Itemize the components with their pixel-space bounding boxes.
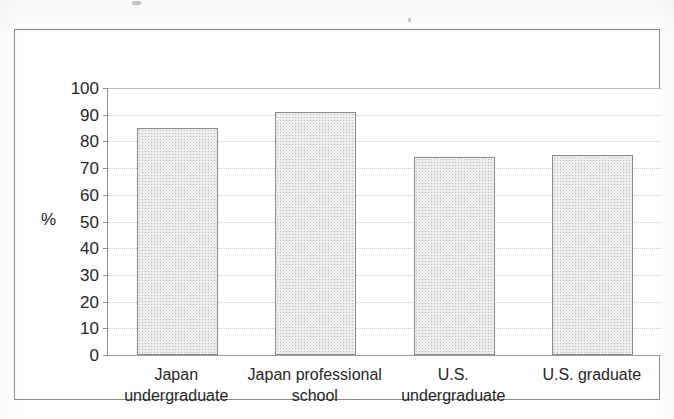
y-axis-tick-mark: [103, 222, 108, 223]
bar: [275, 112, 356, 355]
bar: [414, 157, 495, 355]
gridline: [108, 355, 661, 356]
y-axis-tick-label: 50: [80, 213, 99, 230]
bar: [137, 128, 218, 355]
scan-artifact-speck-top-right: [408, 18, 411, 22]
y-axis-tick-label: 30: [80, 266, 99, 283]
x-axis-category-label-line: undergraduate: [107, 385, 246, 406]
scan-artifact-speck-top-left: [132, 1, 141, 5]
y-axis-tick-label: 100: [71, 80, 99, 97]
x-axis-category-label: U.S. graduate: [523, 364, 662, 385]
chart-figure-frame: 1009080706050403020100 % Japanundergradu…: [14, 29, 660, 400]
x-axis-category-label-line: Japan: [107, 364, 246, 385]
y-axis-tick-label: 20: [80, 293, 99, 310]
y-axis-title: %: [41, 211, 56, 228]
y-axis-tick-labels: 1009080706050403020100: [15, 88, 99, 355]
x-axis-category-label-line: U.S. graduate: [523, 364, 662, 385]
y-axis-tick-mark: [103, 248, 108, 249]
x-axis-category-label: Japan professionalschool: [246, 364, 385, 406]
gridline: [108, 88, 661, 89]
x-axis-category-label-line: undergraduate: [384, 385, 523, 406]
y-axis-tick-mark: [103, 355, 108, 356]
y-axis-tick-label: 90: [80, 106, 99, 123]
x-axis-category-label: U.S.undergraduate: [384, 364, 523, 406]
x-axis-category-label-line: school: [246, 385, 385, 406]
y-axis-tick-label: 70: [80, 160, 99, 177]
x-axis-category-label: Japanundergraduate: [107, 364, 246, 406]
y-axis-tick-mark: [103, 168, 108, 169]
x-axis-category-label-line: U.S.: [384, 364, 523, 385]
gridline: [108, 115, 661, 116]
y-axis-tick-mark: [103, 275, 108, 276]
y-axis-tick-mark: [103, 115, 108, 116]
y-axis-tick-label: 40: [80, 240, 99, 257]
y-axis-tick-label: 80: [80, 133, 99, 150]
x-axis-category-label-line: Japan professional: [246, 364, 385, 385]
y-axis-tick-mark: [103, 141, 108, 142]
y-axis-tick-label: 0: [90, 347, 99, 364]
plot-area: [107, 88, 661, 355]
bar: [552, 155, 633, 355]
y-axis-tick-label: 60: [80, 186, 99, 203]
y-axis-tick-mark: [103, 302, 108, 303]
y-axis-tick-label: 10: [80, 320, 99, 337]
x-axis-category-labels: JapanundergraduateJapan professionalscho…: [107, 364, 661, 419]
y-axis-tick-mark: [103, 195, 108, 196]
y-axis-tick-mark: [103, 328, 108, 329]
y-axis-tick-mark: [103, 88, 108, 89]
